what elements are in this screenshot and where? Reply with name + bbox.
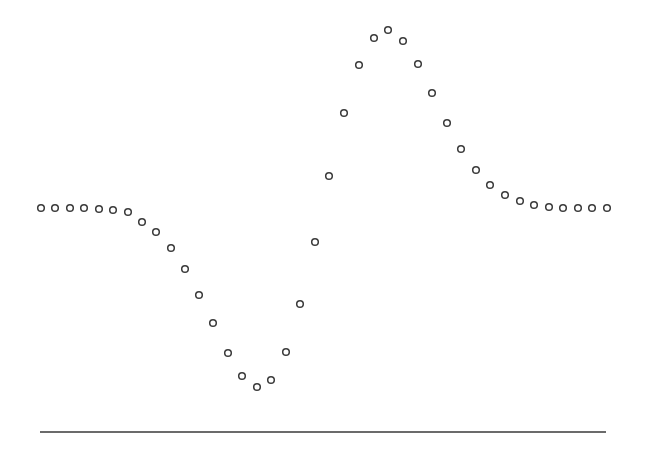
data-point	[589, 205, 596, 212]
data-point	[225, 350, 232, 357]
data-point	[153, 229, 160, 236]
data-point	[473, 167, 480, 174]
data-point	[139, 219, 146, 226]
data-point	[575, 205, 582, 212]
data-point	[312, 239, 319, 246]
data-point	[444, 120, 451, 127]
data-point	[283, 349, 290, 356]
data-point	[371, 35, 378, 42]
data-point	[341, 110, 348, 117]
data-point	[385, 27, 392, 34]
data-point	[52, 205, 59, 212]
data-point	[356, 62, 363, 69]
data-point	[517, 198, 524, 205]
data-point	[487, 182, 494, 189]
data-point	[546, 204, 553, 211]
data-point	[415, 61, 422, 68]
data-point	[458, 146, 465, 153]
data-point	[182, 266, 189, 273]
data-point	[297, 301, 304, 308]
data-point	[254, 384, 261, 391]
scatter-chart	[0, 0, 646, 453]
data-point	[239, 373, 246, 380]
data-point	[502, 192, 509, 199]
data-point	[168, 245, 175, 252]
data-point	[38, 205, 45, 212]
data-point	[210, 320, 217, 327]
data-point	[81, 205, 88, 212]
data-point	[96, 206, 103, 213]
data-points	[38, 27, 611, 391]
data-point	[268, 377, 275, 384]
data-point	[429, 90, 436, 97]
data-point	[125, 209, 132, 216]
data-point	[67, 205, 74, 212]
data-point	[326, 173, 333, 180]
data-point	[560, 205, 567, 212]
data-point	[196, 292, 203, 299]
data-point	[110, 207, 117, 214]
data-point	[604, 205, 611, 212]
data-point	[400, 38, 407, 45]
data-point	[531, 202, 538, 209]
